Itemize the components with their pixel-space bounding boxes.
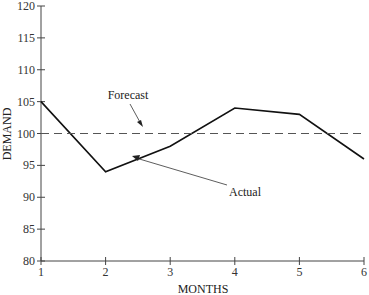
y-tick-label: 105 <box>17 95 35 109</box>
axes: 80859095100105110115120123456 <box>17 0 367 279</box>
actual-line <box>41 102 364 172</box>
y-tick-label: 120 <box>17 0 35 13</box>
y-tick-label: 90 <box>23 190 35 204</box>
y-tick-label: 100 <box>17 127 35 141</box>
y-axis-title: DEMAND <box>0 107 14 160</box>
forecast-annotation: Forecast <box>108 88 149 102</box>
actual-arrow-line <box>136 158 227 185</box>
x-tick-label: 6 <box>361 265 367 279</box>
y-tick-label: 80 <box>23 254 35 268</box>
x-tick-label: 4 <box>232 265 238 279</box>
y-tick-label: 110 <box>17 63 35 77</box>
y-tick-label: 85 <box>23 222 35 236</box>
series <box>41 102 364 172</box>
demand-chart: 80859095100105110115120123456 MONTHS DEM… <box>0 0 369 295</box>
forecast-arrow-head <box>137 120 143 127</box>
actual-annotation: Actual <box>229 185 262 199</box>
x-tick-label: 1 <box>38 265 44 279</box>
y-tick-label: 95 <box>23 158 35 172</box>
x-tick-label: 2 <box>103 265 109 279</box>
x-tick-label: 3 <box>167 265 173 279</box>
x-tick-label: 5 <box>296 265 302 279</box>
y-tick-label: 115 <box>17 31 35 45</box>
x-axis-title: MONTHS <box>178 282 229 295</box>
